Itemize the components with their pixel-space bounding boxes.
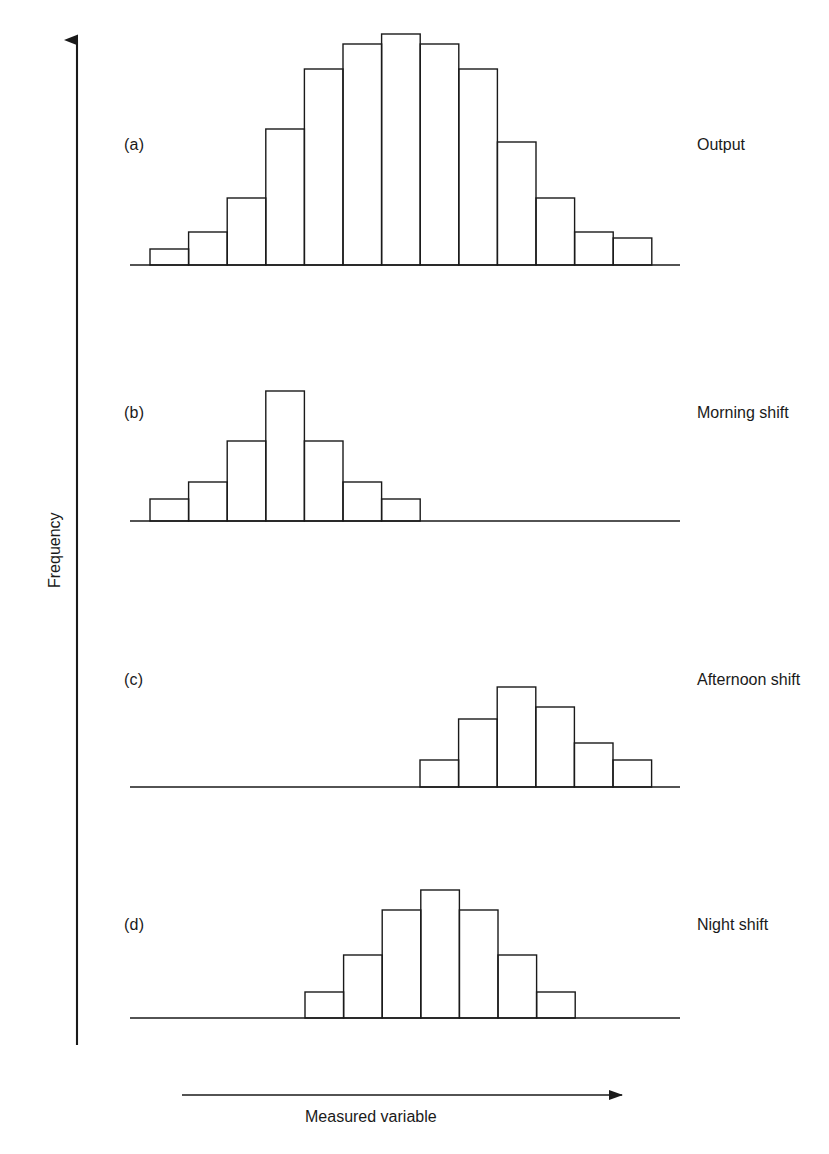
histogram-bar [574,743,613,787]
x-axis-title: Measured variable [305,1108,437,1126]
histogram-bar [575,232,614,265]
histogram-bar [537,992,576,1018]
panel-label-output: Output [697,136,745,154]
histogram-bar [227,198,266,265]
figure-canvas [0,0,829,1154]
histogram-panel-a [130,34,680,265]
panel-label-morning-shift: Morning shift [697,404,789,422]
histogram-bar [421,890,460,1018]
panel-tag-d: (d) [124,916,144,934]
histogram-bar [536,198,575,265]
histogram-panel-c [130,687,680,787]
histogram-bar [459,910,498,1018]
histogram-bar [189,232,228,265]
histogram-bar [382,499,421,521]
panel-label-night-shift: Night shift [697,916,768,934]
histogram-bar [343,482,382,521]
histogram-bar [420,44,459,265]
histogram-bar [266,129,305,265]
histogram-bar [459,719,498,787]
histogram-bar [305,992,344,1018]
histogram-bar [613,760,652,787]
panel-tag-c: (c) [124,671,143,689]
histogram-bar [497,687,536,787]
histogram-panel-b [130,391,680,521]
histogram-bar [536,707,575,787]
histogram-bar [382,34,421,265]
histogram-bar [459,69,498,265]
panel-label-afternoon-shift: Afternoon shift [697,671,800,689]
histogram-bar [420,760,459,787]
panels-layer [130,34,680,1018]
histogram-panel-d [130,890,680,1018]
histogram-bar [613,238,652,265]
panel-tag-b: (b) [124,404,144,422]
histogram-bar [227,441,266,521]
histogram-bar [150,499,189,521]
histogram-bar [304,441,343,521]
histogram-figure: (a) (b) (c) (d) Output Morning shift Aft… [0,0,829,1154]
y-axis-title: Frequency [46,512,64,588]
histogram-bar [189,482,228,521]
histogram-bar [498,955,537,1018]
histogram-bar [382,910,421,1018]
histogram-bar [304,69,343,265]
panel-tag-a: (a) [124,136,144,154]
histogram-bar [266,391,305,521]
histogram-bar [150,249,189,265]
histogram-bar [343,44,382,265]
histogram-bar [344,955,383,1018]
histogram-bar [497,142,536,265]
